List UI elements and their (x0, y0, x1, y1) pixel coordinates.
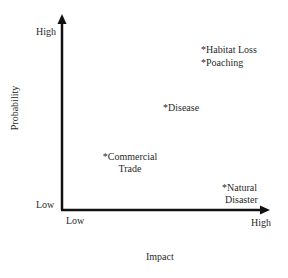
commercial-line-1: *Commercial (96, 151, 164, 163)
y-tick-high: High (36, 26, 56, 38)
x-axis-arrow-icon (260, 206, 270, 215)
x-axis-title: Impact (146, 251, 174, 263)
x-tick-low: Low (66, 215, 84, 227)
x-tick-high: High (251, 217, 271, 229)
commercial-line-2: Trade (96, 163, 164, 175)
y-axis-arrow-icon (58, 14, 67, 24)
point-commercial-trade: *Commercial Trade (96, 151, 164, 175)
natural-line-2: Disaster (222, 194, 258, 206)
natural-line-1: *Natural (222, 182, 258, 194)
axes-graphic (0, 0, 288, 278)
y-tick-low: Low (36, 199, 54, 211)
point-disease: *Disease (163, 102, 199, 114)
point-habitat-loss: *Habitat Loss (201, 44, 257, 56)
point-poaching: *Poaching (201, 57, 243, 69)
y-axis-title: Probability (9, 86, 20, 130)
point-natural-disaster: *Natural Disaster (222, 182, 258, 206)
